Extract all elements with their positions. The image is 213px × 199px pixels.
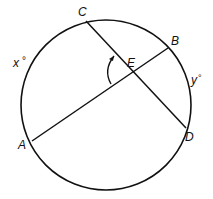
arrowhead-icon — [109, 56, 114, 61]
diagram-canvas: C B D A E x ° y ° — [0, 0, 213, 199]
label-arc-y: y — [190, 73, 198, 87]
chord-ab — [32, 48, 168, 141]
label-point-e: E — [127, 56, 136, 70]
label-point-a: A — [17, 138, 26, 152]
label-point-d: D — [185, 130, 194, 144]
label-point-c: C — [78, 5, 87, 19]
degree-arc-x: ° — [22, 55, 26, 66]
degree-arc-y: ° — [198, 73, 202, 83]
label-point-b: B — [171, 34, 179, 48]
label-arc-x: x — [12, 56, 20, 70]
